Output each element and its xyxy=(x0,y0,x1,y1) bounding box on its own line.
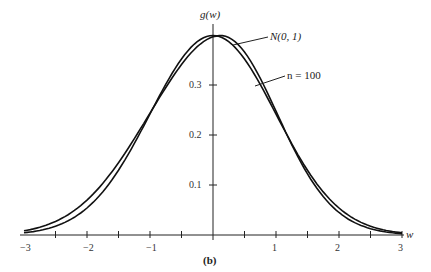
chart: −3−2−11230.10.20.3 g(w) w (b) N(0, 1) n … xyxy=(0,0,431,272)
x-tick-label: −2 xyxy=(83,242,94,253)
y-tick-label: 0.3 xyxy=(189,79,202,90)
x-tick-label: 1 xyxy=(272,242,277,253)
leader-normal xyxy=(233,37,268,45)
x-axis-label: w xyxy=(406,228,414,240)
x-tick-label: 3 xyxy=(398,242,403,253)
x-tick-label: 2 xyxy=(335,242,340,253)
x-tick-label: −1 xyxy=(146,242,157,253)
legend-normal: N(0, 1) xyxy=(269,30,302,43)
x-tick-label: −3 xyxy=(20,242,31,253)
legend-n100: n = 100 xyxy=(287,69,321,81)
y-tick-label: 0.2 xyxy=(189,129,202,140)
y-tick-label: 0.1 xyxy=(189,179,202,190)
figure-caption: (b) xyxy=(203,254,217,267)
y-axis-label: g(w) xyxy=(200,8,221,21)
